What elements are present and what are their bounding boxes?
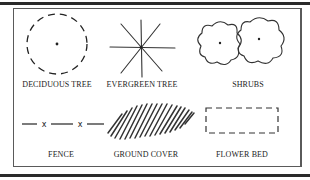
label-fence: FENCE: [48, 151, 74, 159]
ground-cover-icon: [108, 104, 194, 139]
flower-bed-icon: [206, 108, 278, 133]
evergreen-tree-icon: [110, 20, 175, 77]
svg-text:x: x: [42, 120, 47, 129]
label-deciduous-tree: DECIDUOUS TREE: [22, 81, 91, 89]
bottom-rule: [0, 174, 310, 177]
label-ground-cover: GROUND COVER: [114, 151, 179, 159]
label-evergreen-tree: EVERGREEN TREE: [107, 81, 178, 89]
deciduous-tree-icon: [27, 14, 87, 74]
shrubs-icon: [198, 18, 284, 65]
label-flower-bed: FLOWER BED: [216, 151, 268, 159]
svg-text:x: x: [78, 120, 83, 129]
fence-icon: x x: [22, 120, 104, 129]
label-shrubs: SHRUBS: [232, 81, 264, 89]
